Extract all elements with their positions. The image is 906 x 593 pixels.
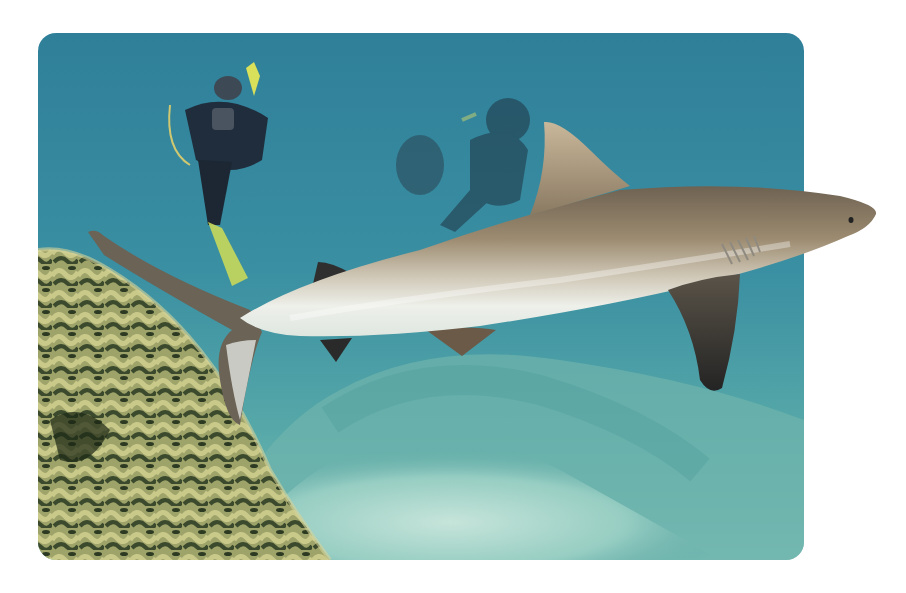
shark-eye <box>849 217 854 223</box>
photo-scene <box>0 0 906 593</box>
